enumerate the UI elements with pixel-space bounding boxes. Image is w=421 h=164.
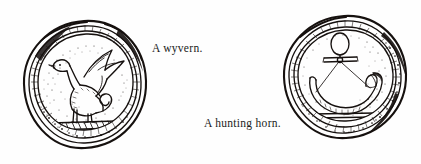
- plate-illustration-page: A wyvern.: [0, 0, 421, 164]
- wax-seal-hunting-horn-drawing: [272, 8, 420, 146]
- wyvern-seal-artwork: [8, 8, 160, 158]
- hunting-horn-device: [310, 33, 382, 114]
- caption-hunting-horn: A hunting horn.: [204, 118, 281, 130]
- seal-field-stipple: [44, 45, 128, 120]
- wax-seal-wyvern-drawing: [8, 8, 160, 158]
- caption-wyvern: A wyvern.: [152, 43, 203, 55]
- hunting-horn-seal-artwork: [272, 8, 420, 146]
- wyvern-creature: [49, 50, 124, 123]
